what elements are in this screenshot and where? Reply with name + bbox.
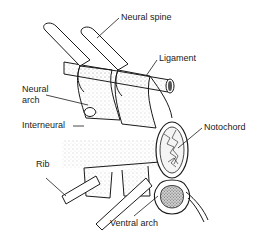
neural-arches [78,66,172,128]
label-notochord: Notochord [204,122,246,132]
label-ventral-arch: Ventral arch [110,218,158,228]
vertebra-diagram: Neural spine Ligament Neural arch Intern… [0,0,264,237]
leader-ligament [146,60,157,76]
label-neural-arch-line2: arch [22,95,40,105]
leader-rib [46,178,66,196]
label-rib: Rib [36,159,50,169]
label-ligament: Ligament [159,53,196,63]
leader-neural-spine [97,18,119,38]
ventral-arch [154,180,208,222]
vertebra-illustration [0,0,264,237]
label-interneural: Interneural [22,120,65,130]
label-neural-arch-line1: Neural [22,84,49,94]
interneural-element [84,108,96,117]
notochord-structure [156,122,188,178]
label-neural-spine: Neural spine [121,12,172,22]
